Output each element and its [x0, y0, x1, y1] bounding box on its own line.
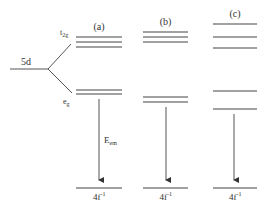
eg-branch-line: [48, 69, 72, 93]
emission-energy-label: Eem: [104, 135, 117, 146]
diagram-canvas: 5d t2g eg (a)Eem4f-1(b)4f-1(c)4f-1: [0, 0, 264, 209]
t2g-branch-line: [48, 44, 71, 69]
panel-label: (c): [229, 8, 240, 20]
panel-b: (b)4f-1: [143, 16, 188, 202]
panel-a: (a)Eem4f-1: [76, 21, 122, 202]
t2g-label: t2g: [60, 28, 68, 38]
panel-c: (c)4f-1: [213, 8, 257, 202]
5d-label: 5d: [21, 56, 31, 67]
panels: (a)Eem4f-1(b)4f-1(c)4f-1: [76, 8, 257, 202]
4f-ground-label: 4f-1: [93, 191, 106, 202]
eg-label: eg: [63, 97, 70, 107]
energy-level-diagram: 5d t2g eg (a)Eem4f-1(b)4f-1(c)4f-1: [0, 0, 264, 209]
4f-ground-label: 4f-1: [229, 191, 242, 202]
4f-ground-label: 4f-1: [160, 191, 173, 202]
panel-label: (b): [160, 16, 172, 28]
panel-label: (a): [93, 21, 104, 33]
free-ion-5d: [10, 44, 72, 93]
